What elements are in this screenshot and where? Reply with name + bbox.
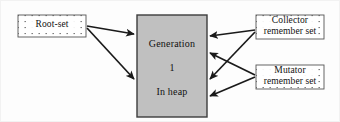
generation-label-line1: Generation bbox=[137, 39, 207, 50]
diagram-canvas: Root-set Collector remember set Mutator … bbox=[0, 0, 340, 122]
mutator-label-line1: Mutator bbox=[274, 65, 305, 75]
edge-root-set-to-generation-upper bbox=[87, 26, 134, 34]
collector-remember-set-label: Collector remember set bbox=[256, 16, 324, 37]
root-set-label: Root-set bbox=[18, 20, 86, 30]
collector-label-line1: Collector bbox=[272, 15, 308, 25]
mutator-label-line2: remember set bbox=[256, 77, 324, 87]
edge-collector-to-generation-upper bbox=[210, 30, 255, 36]
generation-label-line2: 1 bbox=[137, 63, 207, 74]
edge-mutator-to-generation-lower bbox=[210, 77, 255, 96]
generation-label-line3: In heap bbox=[137, 87, 207, 98]
collector-label-line2: remember set bbox=[256, 27, 324, 37]
mutator-remember-set-label: Mutator remember set bbox=[256, 66, 324, 87]
edge-root-set-to-generation-lower bbox=[87, 28, 134, 79]
